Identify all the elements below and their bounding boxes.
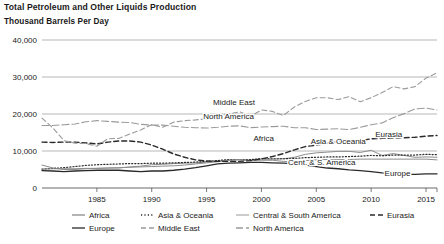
legend-item[interactable]: Central & South America	[236, 211, 341, 220]
chart-plot: 010,00020,00030,00040,000198519901995200…	[0, 0, 444, 244]
y-axis-tick-label: 30,000	[13, 73, 38, 82]
x-axis-tick-label: 2010	[362, 195, 380, 204]
legend-item[interactable]: Africa	[72, 211, 110, 220]
series-label-eurasia: Eurasia	[375, 130, 403, 139]
y-axis-tick-label: 40,000	[13, 36, 38, 45]
chart-container: Total Petroleum and Other Liquids Produc…	[0, 0, 444, 244]
legend-label: Middle East	[158, 224, 201, 233]
y-axis-tick-label: 0	[33, 184, 38, 193]
y-axis-tick-label: 20,000	[13, 110, 38, 119]
legend-item[interactable]: Europe	[72, 224, 115, 233]
series-label-central-south-america: Cent. & S. America	[288, 158, 356, 167]
legend-label: Africa	[89, 211, 110, 220]
legend-label: Europe	[89, 224, 115, 233]
x-axis-tick-label: 2015	[417, 195, 435, 204]
legend-label: Central & South America	[253, 211, 341, 220]
x-axis-tick-label: 1985	[88, 195, 106, 204]
legend-item[interactable]: Asia & Oceania	[141, 211, 214, 220]
series-label-north-america: North America	[203, 112, 254, 121]
x-axis-tick-label: 2005	[307, 195, 325, 204]
series-label-africa: Africa	[253, 134, 274, 143]
series-label-europe: Europe	[385, 169, 411, 178]
legend-item[interactable]: North America	[236, 224, 304, 233]
legend-label: North America	[253, 224, 304, 233]
legend-label: Asia & Oceania	[158, 211, 214, 220]
legend-label: Eurasia	[387, 211, 415, 220]
legend-item[interactable]: Middle East	[141, 224, 201, 233]
series-line-eurasia	[42, 135, 437, 161]
series-label-middle-east: Middle East	[213, 98, 256, 107]
series-label-asia-oceania: Asia & Oceania	[311, 137, 367, 146]
legend-item[interactable]: Eurasia	[370, 211, 415, 220]
x-axis-tick-label: 2000	[253, 195, 271, 204]
y-axis-tick-label: 10,000	[13, 147, 38, 156]
x-axis-tick-label: 1990	[143, 195, 161, 204]
x-axis-tick-label: 1995	[198, 195, 216, 204]
